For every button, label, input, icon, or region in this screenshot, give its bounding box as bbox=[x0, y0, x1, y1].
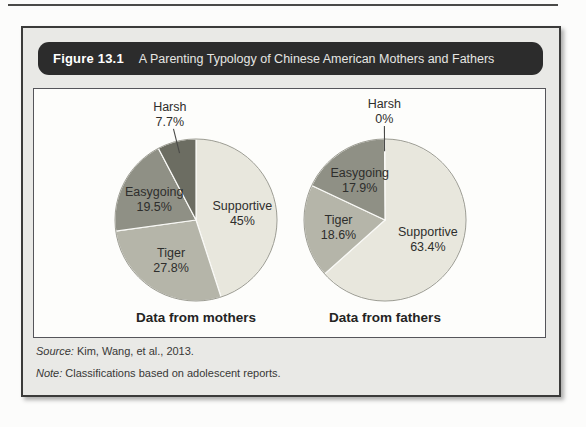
slice-name: Supportive bbox=[398, 225, 458, 239]
figure-number-label: Figure 13.1 bbox=[53, 51, 124, 66]
slice-name: Tiger bbox=[157, 246, 185, 260]
chart-panel: Supportive45%Tiger27.8%Easygoing19.5%Har… bbox=[33, 88, 546, 338]
slice-label-tiger: Tiger18.6% bbox=[321, 213, 356, 242]
slice-percent: 19.5% bbox=[136, 200, 171, 214]
figure-header-banner: Figure 13.1 A Parenting Typology of Chin… bbox=[38, 42, 543, 75]
slice-label-harsh: Harsh7.7% bbox=[153, 100, 186, 129]
figure-box: Figure 13.1 A Parenting Typology of Chin… bbox=[21, 26, 561, 397]
page-top-rule bbox=[8, 4, 558, 6]
slice-name: Harsh bbox=[153, 100, 186, 114]
slice-label-harsh: Harsh0% bbox=[368, 97, 401, 126]
slice-name: Supportive bbox=[213, 199, 273, 213]
source-prefix: Source: bbox=[36, 345, 74, 357]
source-text: Kim, Wang, et al., 2013. bbox=[77, 345, 194, 357]
pie-chart-fathers: Supportive63.4%Tiger18.6%Easygoing17.9%H… bbox=[265, 89, 505, 339]
slice-name: Harsh bbox=[368, 97, 401, 111]
figure-title: A Parenting Typology of Chinese American… bbox=[139, 52, 495, 66]
slice-percent: 17.9% bbox=[342, 181, 377, 195]
slice-percent: 18.6% bbox=[321, 228, 356, 242]
slice-percent: 7.7% bbox=[156, 115, 185, 129]
slice-name: Easygoing bbox=[331, 166, 389, 180]
pie-caption-mothers: Data from mothers bbox=[86, 310, 306, 325]
slice-label-tiger: Tiger27.8% bbox=[153, 246, 188, 275]
note-prefix: Note: bbox=[36, 367, 62, 379]
slice-name: Tiger bbox=[324, 213, 352, 227]
slice-percent: 27.8% bbox=[153, 261, 188, 275]
pie-caption-fathers: Data from fathers bbox=[275, 310, 495, 325]
slice-percent: 45% bbox=[230, 214, 255, 228]
source-line: Source:Kim, Wang, et al., 2013. bbox=[36, 345, 194, 357]
note-text: Classifications based on adolescent repo… bbox=[65, 367, 280, 379]
slice-percent: 63.4% bbox=[410, 240, 445, 254]
note-line: Note:Classifications based on adolescent… bbox=[36, 367, 281, 379]
slice-percent: 0% bbox=[375, 112, 393, 126]
slice-name: Easygoing bbox=[125, 185, 183, 199]
